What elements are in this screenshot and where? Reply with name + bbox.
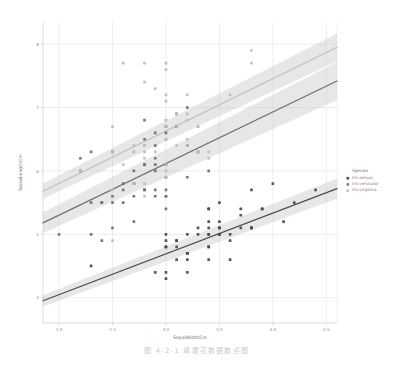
data-point-iris-virginica bbox=[154, 151, 157, 154]
data-point-iris-virginica bbox=[250, 62, 253, 65]
data-point-iris-virginica bbox=[165, 163, 168, 166]
data-point-iris-versicolor bbox=[133, 170, 136, 173]
data-point-iris-virginica bbox=[143, 62, 146, 65]
y-tick-label-5: 5 bbox=[36, 232, 39, 237]
data-point-iris-virginica bbox=[165, 94, 168, 97]
data-point-iris-setosa bbox=[197, 233, 200, 236]
data-point-iris-setosa bbox=[218, 201, 221, 204]
data-point-iris-setosa bbox=[250, 189, 253, 192]
figure-caption: 图 4-2-1 鸢尾花数据散点图 bbox=[0, 345, 393, 355]
data-point-iris-setosa bbox=[90, 265, 93, 268]
data-point-iris-versicolor bbox=[90, 233, 93, 236]
data-point-iris-virginica bbox=[154, 87, 157, 90]
data-point-iris-virginica bbox=[207, 151, 210, 154]
x-tick-label-3.5: 3.5 bbox=[216, 327, 223, 332]
data-point-iris-versicolor bbox=[111, 227, 114, 230]
data-point-iris-setosa bbox=[165, 233, 168, 236]
data-point-iris-setosa bbox=[154, 271, 157, 274]
data-point-iris-versicolor bbox=[165, 132, 168, 135]
data-point-iris-virginica bbox=[207, 157, 210, 160]
data-point-iris-versicolor bbox=[111, 195, 114, 198]
legend-label-iris-setosa: Iris-setosa bbox=[352, 175, 373, 180]
data-point-iris-setosa bbox=[272, 182, 275, 185]
y-axis-title: SepalLengthCm bbox=[18, 154, 23, 191]
data-point-iris-versicolor bbox=[100, 201, 103, 204]
data-point-iris-versicolor bbox=[165, 208, 168, 211]
data-point-iris-versicolor bbox=[122, 189, 125, 192]
data-point-iris-virginica bbox=[186, 144, 189, 147]
data-point-iris-virginica bbox=[186, 119, 189, 122]
data-point-iris-versicolor bbox=[100, 239, 103, 242]
data-point-iris-setosa bbox=[218, 227, 221, 230]
data-point-iris-virginica bbox=[133, 144, 136, 147]
data-point-iris-virginica bbox=[79, 170, 82, 173]
data-point-iris-versicolor bbox=[133, 220, 136, 223]
data-point-iris-virginica bbox=[197, 125, 200, 128]
data-point-iris-setosa bbox=[175, 246, 178, 249]
data-point-iris-virginica bbox=[143, 144, 146, 147]
data-point-iris-virginica bbox=[143, 195, 146, 198]
data-point-iris-virginica bbox=[111, 125, 114, 128]
y-tick-label-8: 8 bbox=[36, 42, 39, 47]
data-point-iris-versicolor bbox=[154, 170, 157, 173]
data-point-iris-setosa bbox=[207, 227, 210, 230]
data-point-iris-setosa bbox=[165, 277, 168, 280]
scatter-plot-svg: 2.02.53.03.54.04.545678SepalWidthCmSepal… bbox=[0, 0, 393, 365]
data-point-iris-setosa bbox=[239, 208, 242, 211]
data-point-iris-setosa bbox=[186, 271, 189, 274]
data-point-iris-virginica bbox=[122, 163, 125, 166]
data-point-iris-virginica bbox=[175, 113, 178, 116]
y-tick-label-7: 7 bbox=[36, 105, 39, 110]
data-point-iris-setosa bbox=[186, 233, 189, 236]
data-point-iris-virginica bbox=[250, 49, 253, 52]
x-tick-label-4.5: 4.5 bbox=[323, 327, 330, 332]
data-point-iris-virginica bbox=[165, 138, 168, 141]
data-point-iris-versicolor bbox=[154, 163, 157, 166]
data-point-iris-setosa bbox=[165, 239, 168, 242]
data-point-iris-virginica bbox=[133, 151, 136, 154]
data-point-iris-versicolor bbox=[111, 201, 114, 204]
data-point-iris-virginica bbox=[143, 157, 146, 160]
data-point-iris-virginica bbox=[186, 113, 189, 116]
data-point-iris-versicolor bbox=[207, 170, 210, 173]
data-point-iris-versicolor bbox=[165, 189, 168, 192]
data-point-iris-setosa bbox=[229, 233, 232, 236]
data-point-iris-setosa bbox=[207, 246, 210, 249]
data-point-iris-setosa bbox=[186, 252, 189, 255]
x-tick-label-2.5: 2.5 bbox=[109, 327, 116, 332]
data-point-iris-versicolor bbox=[79, 157, 82, 160]
data-point-iris-setosa bbox=[218, 220, 221, 223]
data-point-iris-setosa bbox=[165, 271, 168, 274]
data-point-iris-virginica bbox=[229, 94, 232, 97]
data-point-iris-versicolor bbox=[122, 182, 125, 185]
data-point-iris-virginica bbox=[111, 189, 114, 192]
data-point-iris-virginica bbox=[165, 62, 168, 65]
x-tick-label-2.0: 2.0 bbox=[56, 327, 63, 332]
data-point-iris-versicolor bbox=[90, 151, 93, 154]
data-point-iris-virginica bbox=[175, 144, 178, 147]
data-point-iris-versicolor bbox=[90, 201, 93, 204]
data-point-iris-setosa bbox=[239, 227, 242, 230]
data-point-iris-setosa bbox=[282, 220, 285, 223]
data-point-iris-versicolor bbox=[165, 195, 168, 198]
data-point-iris-virginica bbox=[165, 68, 168, 71]
data-point-iris-versicolor bbox=[186, 176, 189, 179]
data-point-iris-virginica bbox=[111, 151, 114, 154]
data-point-iris-virginica bbox=[143, 182, 146, 185]
figure-container: 2.02.53.03.54.04.545678SepalWidthCmSepal… bbox=[0, 0, 393, 365]
data-point-iris-setosa bbox=[207, 220, 210, 223]
data-point-iris-setosa bbox=[207, 258, 210, 261]
data-point-iris-versicolor bbox=[143, 119, 146, 122]
data-point-iris-virginica bbox=[165, 170, 168, 173]
data-point-iris-versicolor bbox=[143, 189, 146, 192]
data-point-iris-setosa bbox=[229, 239, 232, 242]
data-point-iris-virginica bbox=[165, 176, 168, 179]
data-point-iris-virginica bbox=[165, 100, 168, 103]
legend-marker-iris-setosa bbox=[347, 177, 350, 180]
data-point-iris-virginica bbox=[175, 125, 178, 128]
data-point-iris-virginica bbox=[122, 62, 125, 65]
y-tick-label-4: 4 bbox=[36, 295, 39, 300]
data-point-iris-setosa bbox=[207, 233, 210, 236]
data-point-iris-virginica bbox=[197, 151, 200, 154]
data-point-iris-versicolor bbox=[133, 195, 136, 198]
